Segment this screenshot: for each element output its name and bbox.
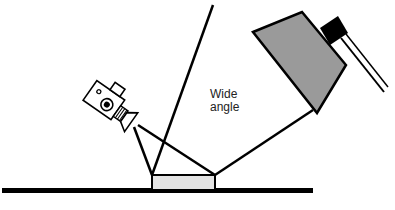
video-camera-icon bbox=[82, 73, 145, 131]
softbox-light-icon bbox=[253, 12, 388, 113]
camera-line-left bbox=[134, 127, 152, 175]
light-line bbox=[215, 110, 313, 175]
wide-angle-line bbox=[152, 5, 213, 175]
wide-angle-label-line2: angle bbox=[210, 101, 239, 114]
lighting-diagram bbox=[0, 0, 395, 210]
subject-box bbox=[152, 175, 215, 190]
